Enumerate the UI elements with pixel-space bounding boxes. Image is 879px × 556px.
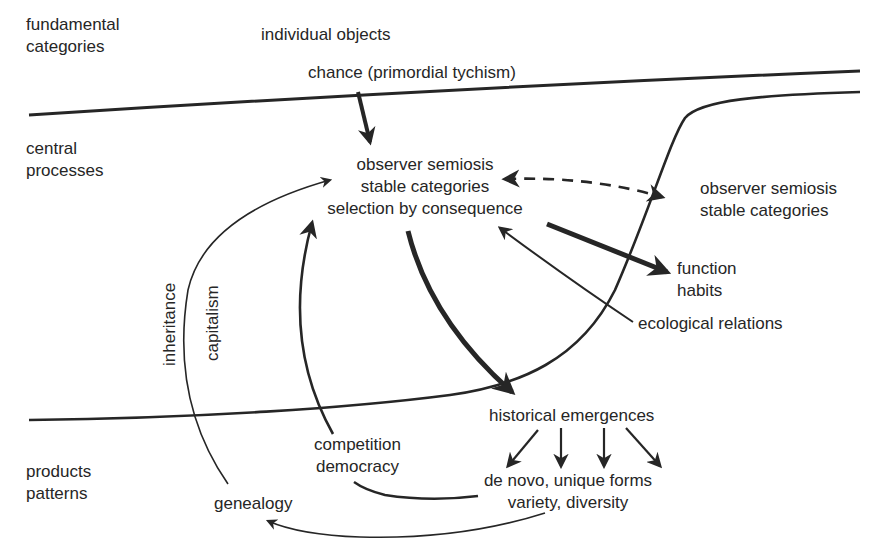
diagram-canvas: fundamental categories central processes… (0, 0, 879, 556)
node-center: observer semiosis stable categories sele… (305, 154, 545, 220)
level-label-fundamental: fundamental categories (26, 14, 120, 58)
edge-label-inheritance: inheritance (160, 283, 180, 366)
node-chance: chance (primordial tychism) (308, 62, 516, 84)
node-individual-objects: individual objects (261, 24, 390, 46)
level-label-line: products (26, 461, 91, 483)
node-right-observer: observer semiosis stable categories (700, 178, 837, 222)
node-competition-line: competition (305, 434, 410, 456)
arrow-center-to-historical (408, 231, 512, 392)
level-label-line: central (26, 138, 103, 160)
level-label-line: categories (26, 36, 120, 58)
line-forms-to-competition (354, 482, 478, 499)
level-label-central: central processes (26, 138, 103, 182)
node-competition: competition democracy (305, 434, 410, 478)
level-label-products: products patterns (26, 461, 91, 505)
level-label-line: processes (26, 160, 103, 182)
node-historical: historical emergences (489, 405, 654, 427)
arrow-historical-to-forms-4 (626, 428, 660, 466)
node-right-observer-line: observer semiosis (700, 178, 837, 200)
arrow-chance-to-center (358, 92, 370, 142)
node-ecological: ecological relations (638, 313, 783, 335)
arrow-ecological-to-center (500, 228, 633, 322)
node-function-line: function (677, 258, 737, 280)
arrow-historical-to-forms-1 (508, 430, 538, 466)
node-center-line: observer semiosis (305, 154, 545, 176)
node-forms-line: variety, diversity (468, 492, 668, 514)
s-curve-boundary-line (29, 92, 860, 420)
edge-label-capitalism: capitalism (203, 285, 223, 361)
node-center-line: selection by consequence (305, 198, 545, 220)
node-function-line: habits (677, 280, 737, 302)
arrow-center-to-function (547, 224, 667, 272)
node-competition-line: democracy (305, 456, 410, 478)
level-label-line: patterns (26, 483, 91, 505)
node-genealogy: genealogy (214, 493, 292, 515)
node-forms-line: de novo, unique forms (468, 470, 668, 492)
node-right-observer-line: stable categories (700, 200, 837, 222)
node-center-line: stable categories (305, 176, 545, 198)
arrow-forms-to-genealogy (268, 513, 545, 537)
level-label-line: fundamental (26, 14, 120, 36)
node-forms: de novo, unique forms variety, diversity (468, 470, 668, 514)
arrow-competition-to-center (300, 223, 333, 434)
node-function: function habits (677, 258, 737, 302)
